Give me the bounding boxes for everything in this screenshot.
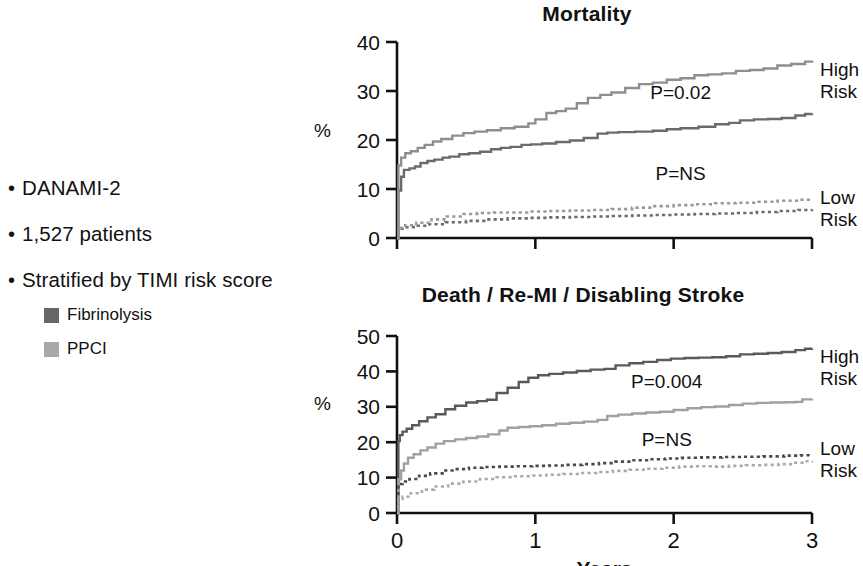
chart-mortality: Mortality % 010203040P=0.02P=NSHighRiskL… bbox=[296, 0, 858, 262]
list-item: • 1,527 patients bbox=[8, 222, 338, 246]
bullet-icon: • bbox=[8, 176, 22, 200]
legend-swatch-icon bbox=[44, 308, 59, 323]
bullet-text: 1,527 patients bbox=[22, 222, 152, 246]
bullet-text: DANAMI-2 bbox=[22, 176, 121, 200]
risk-group-label: Low bbox=[820, 187, 855, 208]
legend-item-fibrinolysis: Fibrinolysis bbox=[44, 306, 152, 324]
y-tick-label: 10 bbox=[357, 178, 380, 201]
y-tick-label: 40 bbox=[357, 31, 380, 54]
risk-group-label: Risk bbox=[820, 209, 857, 230]
bullet-icon: • bbox=[8, 268, 22, 292]
chart-canvas-death-remi-stroke: 010203040500123P=0.004P=NSHighRiskLowRis… bbox=[296, 280, 858, 566]
list-item: • DANAMI-2 bbox=[8, 176, 338, 200]
x-axis-title: Years bbox=[576, 557, 632, 566]
risk-group-label: High bbox=[820, 59, 859, 80]
legend-label: PPCI bbox=[67, 340, 107, 358]
y-tick-label: 30 bbox=[357, 395, 380, 418]
y-tick-label: 30 bbox=[357, 80, 380, 103]
bullet-icon: • bbox=[8, 222, 22, 246]
legend-swatch-icon bbox=[44, 342, 59, 357]
bullet-text: Stratified by TIMI risk score bbox=[22, 268, 273, 292]
y-tick-label: 0 bbox=[368, 502, 380, 525]
pvalue-annotation: P=0.004 bbox=[631, 371, 703, 392]
y-tick-label: 0 bbox=[368, 227, 380, 250]
risk-group-label: Risk bbox=[820, 81, 857, 102]
risk-group-label: Risk bbox=[820, 368, 857, 389]
bullet-list: • DANAMI-2 • 1,527 patients • Stratified… bbox=[8, 176, 338, 314]
data-series-line bbox=[397, 348, 812, 513]
legend-item-ppci: PPCI bbox=[44, 340, 152, 358]
pvalue-annotation: P=0.02 bbox=[650, 82, 711, 103]
left-text-panel: • DANAMI-2 • 1,527 patients • Stratified… bbox=[0, 0, 340, 566]
data-series-line bbox=[397, 399, 812, 513]
x-tick-label: 1 bbox=[529, 528, 541, 553]
risk-group-label: Low bbox=[820, 438, 855, 459]
y-tick-label: 10 bbox=[357, 466, 380, 489]
list-item: • Stratified by TIMI risk score bbox=[8, 268, 338, 292]
y-tick-label: 20 bbox=[357, 129, 380, 152]
x-tick-label: 0 bbox=[391, 528, 403, 553]
y-tick-label: 20 bbox=[357, 431, 380, 454]
x-tick-label: 3 bbox=[806, 528, 818, 553]
data-series-line bbox=[397, 61, 812, 238]
legend-label: Fibrinolysis bbox=[67, 306, 152, 324]
data-series-line bbox=[397, 114, 812, 238]
x-tick-label: 2 bbox=[668, 528, 680, 553]
legend: Fibrinolysis PPCI bbox=[44, 306, 152, 374]
pvalue-annotation: P=NS bbox=[642, 429, 692, 450]
y-tick-label: 50 bbox=[357, 325, 380, 348]
risk-group-label: Risk bbox=[820, 460, 857, 481]
chart-death-remi-stroke: Death / Re-MI / Disabling Stroke % 01020… bbox=[296, 280, 858, 566]
data-series-line bbox=[397, 199, 812, 238]
y-tick-label: 40 bbox=[357, 360, 380, 383]
data-series-line bbox=[397, 461, 812, 513]
data-series-line bbox=[397, 210, 812, 238]
pvalue-annotation: P=NS bbox=[655, 163, 705, 184]
risk-group-label: High bbox=[820, 346, 859, 367]
chart-canvas-mortality: 010203040P=0.02P=NSHighRiskLowRisk bbox=[296, 0, 858, 262]
